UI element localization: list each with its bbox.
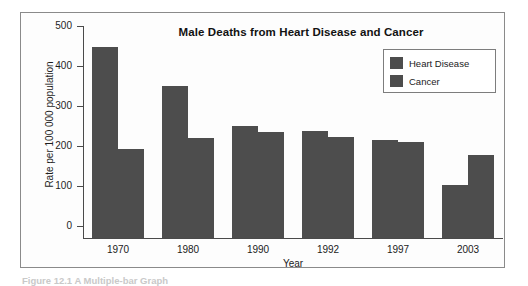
figure-caption: Figure 12.1 A Multiple-bar Graph (22, 275, 168, 286)
x-tick-label-2003: 2003 (438, 244, 498, 255)
bar-heart-disease-1990 (232, 126, 258, 238)
plot-area: Male Deaths from Heart Disease and Cance… (21, 13, 506, 269)
bar-heart-disease-1980 (162, 86, 188, 238)
legend-item-heart-disease: Heart Disease (390, 55, 489, 71)
figure-container: Male Deaths from Heart Disease and Cance… (0, 0, 528, 286)
legend-item-cancer: Cancer (390, 73, 489, 89)
legend-label: Heart Disease (409, 58, 469, 69)
x-tick-label-1980: 1980 (158, 244, 218, 255)
color-swatch-icon (390, 75, 403, 87)
bar-cancer-1997 (398, 142, 424, 238)
legend-label: Cancer (409, 76, 440, 87)
bar-cancer-1992 (328, 137, 354, 238)
chart-frame: Male Deaths from Heart Disease and Cance… (20, 12, 505, 268)
color-swatch-icon (390, 57, 403, 69)
chart-legend: Heart Disease Cancer (383, 49, 496, 93)
bar-heart-disease-2003 (442, 185, 468, 238)
x-tick-label-1990: 1990 (228, 244, 288, 255)
bar-cancer-1980 (188, 138, 214, 238)
bar-heart-disease-1997 (372, 140, 398, 238)
bar-cancer-1970 (118, 149, 144, 238)
x-axis-title: Year (83, 258, 503, 269)
x-tick-label-1997: 1997 (368, 244, 428, 255)
bar-cancer-1990 (258, 132, 284, 238)
bar-cancer-2003 (468, 155, 494, 238)
bar-heart-disease-1992 (302, 131, 328, 238)
bar-heart-disease-1970 (92, 47, 118, 238)
x-tick-label-1970: 1970 (88, 244, 148, 255)
x-tick-label-1992: 1992 (298, 244, 358, 255)
